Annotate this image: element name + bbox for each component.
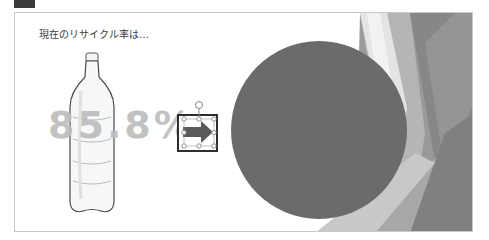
slide-title: 現在のリサイクル率は…	[39, 26, 149, 41]
slide-thumbnail-tab[interactable]	[14, 0, 35, 8]
slide-canvas[interactable]: 現在のリサイクル率は… 85.8%	[14, 12, 473, 232]
rotate-handle-icon	[196, 102, 203, 109]
recycle-rate-value: 85.8%	[48, 103, 195, 147]
right-arrow-icon[interactable]	[175, 99, 223, 155]
gray-circle-shape[interactable]	[231, 41, 407, 219]
